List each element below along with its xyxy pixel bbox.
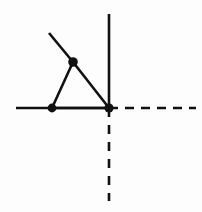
left-node (48, 104, 57, 113)
origin-node (104, 103, 113, 112)
figure-canvas (0, 0, 202, 212)
figure-svg (0, 0, 202, 212)
apex-node (68, 57, 78, 67)
figure-background (0, 0, 202, 212)
